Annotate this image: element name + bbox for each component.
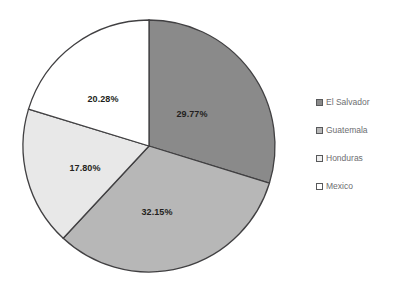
legend-swatch-icon [316, 183, 323, 190]
legend-swatch-icon [316, 155, 323, 162]
pie-slice-data-label: 17.80% [69, 163, 100, 173]
legend-item-honduras[interactable]: Honduras [316, 149, 398, 167]
legend-swatch-icon [316, 99, 323, 106]
pie-chart-plot-area: 29.77%32.15%17.80%20.28% [0, 0, 300, 290]
legend-item-guatemala[interactable]: Guatemala [316, 121, 398, 139]
pie-chart-figure: 29.77%32.15%17.80%20.28% El SalvadorGuat… [0, 0, 398, 290]
pie-slice-data-label: 32.15% [141, 207, 172, 217]
legend-item-label: Guatemala [326, 126, 368, 135]
pie-slice-data-label: 29.77% [176, 109, 207, 119]
pie-chart-svg [0, 0, 300, 290]
legend-item-label: El Salvador [326, 98, 369, 107]
pie-slice-group [23, 20, 275, 272]
legend-item-mexico[interactable]: Mexico [316, 177, 398, 195]
legend-item-label: Honduras [326, 154, 363, 163]
legend-swatch-icon [316, 127, 323, 134]
chart-legend: El SalvadorGuatemalaHondurasMexico [316, 93, 398, 205]
pie-slice-data-label: 20.28% [87, 94, 118, 104]
legend-item-label: Mexico [326, 182, 353, 191]
legend-item-el-salvador[interactable]: El Salvador [316, 93, 398, 111]
